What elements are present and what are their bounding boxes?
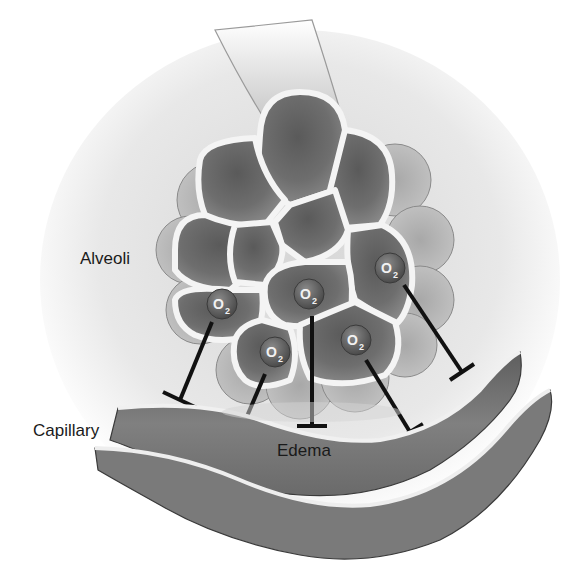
- svg-text:2: 2: [278, 354, 283, 364]
- svg-text:2: 2: [359, 342, 364, 352]
- o2-molecule-5: O 2: [341, 325, 371, 355]
- o2-molecule-1: O 2: [375, 253, 405, 283]
- diagram-stage: O 2 O 2 O 2 O 2 O 2 Alveoli Capillary Ed…: [0, 0, 576, 588]
- svg-text:O: O: [213, 296, 224, 312]
- edema-label: Edema: [277, 441, 331, 461]
- o2-molecule-4: O 2: [260, 337, 290, 367]
- svg-text:2: 2: [225, 306, 230, 316]
- svg-text:O: O: [266, 344, 277, 360]
- svg-text:O: O: [300, 286, 311, 302]
- diagram-canvas: O 2 O 2 O 2 O 2 O 2: [0, 0, 576, 588]
- svg-text:2: 2: [312, 296, 317, 306]
- o2-molecule-3: O 2: [294, 279, 324, 309]
- capillary-label: Capillary: [33, 421, 99, 441]
- svg-text:O: O: [347, 332, 358, 348]
- alveoli-label: Alveoli: [80, 249, 130, 269]
- edema-fluid: [222, 402, 402, 422]
- o2-molecule-2: O 2: [207, 289, 237, 319]
- svg-text:O: O: [381, 260, 392, 276]
- svg-text:2: 2: [393, 270, 398, 280]
